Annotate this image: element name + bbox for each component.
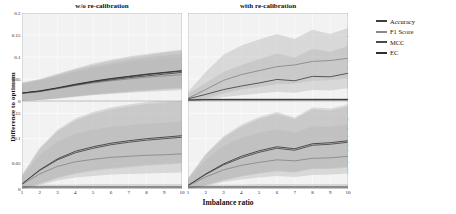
y-axis-ticks-row-0: 0.20.150.10.050 bbox=[0, 13, 22, 101]
x-tick-label: 3 bbox=[222, 190, 225, 195]
y-tick-label: 0.1 bbox=[1, 55, 23, 60]
y-tick-label: 0.15 bbox=[1, 33, 23, 38]
legend-label: MCC bbox=[390, 39, 404, 46]
x-tick-label: 10 bbox=[346, 190, 351, 195]
y-tick-label: 0.15 bbox=[1, 111, 23, 116]
x-tick-label: 9 bbox=[329, 190, 332, 195]
x-tick-label: 6 bbox=[276, 190, 279, 195]
panel-threshold-wo-recalibration bbox=[22, 101, 182, 189]
x-axis-title: Imbalance ratio bbox=[0, 198, 456, 207]
y-axis-ticks-row-1: 0.150.10.050 bbox=[0, 101, 22, 189]
legend-item-accuracy[interactable]: Accuracy bbox=[376, 16, 454, 27]
x-tick-label: 2 bbox=[39, 190, 42, 195]
y-tick-label: 0.2 bbox=[1, 11, 23, 16]
x-tick-label: 7 bbox=[293, 190, 296, 195]
y-tick-label: 0.05 bbox=[1, 77, 23, 82]
legend-label: Accuracy bbox=[390, 18, 415, 25]
legend-label: F1 Score bbox=[390, 28, 413, 35]
x-tick-label: 1 bbox=[187, 190, 190, 195]
x-tick-label: 1 bbox=[21, 190, 24, 195]
x-tick-label: 6 bbox=[110, 190, 113, 195]
panel-threshold-with-recalibration bbox=[188, 101, 348, 189]
x-tick-label: 4 bbox=[74, 190, 77, 195]
x-tick-label: 2 bbox=[205, 190, 208, 195]
legend-item-ec[interactable]: EC bbox=[376, 48, 454, 59]
legend-item-mcc[interactable]: MCC bbox=[376, 37, 454, 48]
legend-swatch-icon bbox=[376, 52, 387, 54]
x-tick-label: 10 bbox=[180, 190, 185, 195]
x-axis-ticks-col-1: 12345678910 bbox=[188, 189, 348, 198]
legend-swatch-icon bbox=[376, 20, 387, 22]
y-tick-label: 0.05 bbox=[1, 161, 23, 166]
x-tick-label: 4 bbox=[240, 190, 243, 195]
panel-argmax-wo-recalibration bbox=[22, 13, 182, 101]
y-tick-label: 0 bbox=[1, 187, 23, 192]
facet-col-title-0: w/o re-calibration bbox=[22, 0, 182, 13]
legend: AccuracyF1 ScoreMCCEC bbox=[376, 16, 454, 58]
legend-swatch-icon bbox=[376, 41, 387, 43]
legend-swatch-icon bbox=[376, 31, 387, 33]
x-tick-label: 7 bbox=[127, 190, 130, 195]
legend-label: EC bbox=[390, 49, 398, 56]
y-tick-label: 0.1 bbox=[1, 136, 23, 141]
x-tick-label: 9 bbox=[163, 190, 166, 195]
x-tick-label: 3 bbox=[56, 190, 59, 195]
x-tick-label: 8 bbox=[145, 190, 148, 195]
chart-figure: Difference to optimum w/o re-calibration… bbox=[0, 0, 456, 214]
x-tick-label: 5 bbox=[258, 190, 261, 195]
legend-item-f1-score[interactable]: F1 Score bbox=[376, 27, 454, 38]
panel-argmax-with-recalibration bbox=[188, 13, 348, 101]
x-axis-ticks-col-0: 12345678910 bbox=[22, 189, 182, 198]
x-tick-label: 5 bbox=[92, 190, 95, 195]
facet-col-title-1: with re-calibration bbox=[188, 0, 348, 13]
x-tick-label: 8 bbox=[311, 190, 314, 195]
